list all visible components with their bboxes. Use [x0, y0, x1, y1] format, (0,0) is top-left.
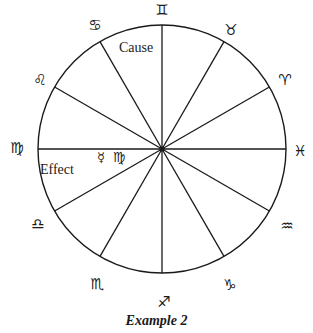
taurus-icon: ♉︎: [224, 23, 237, 38]
diagram-caption: Example 2: [0, 313, 313, 329]
effect-label: Effect: [40, 163, 74, 177]
virgo-icon: ♍︎: [10, 141, 23, 156]
pisces-icon: ♓︎: [293, 144, 306, 159]
aries-icon: ♈︎: [278, 73, 291, 88]
wheel-center: [160, 147, 165, 152]
wheel-spoke: [100, 42, 162, 149]
wheel-spoke: [162, 149, 224, 256]
wheel-spoke: [162, 42, 224, 149]
virgo-inner-icon: ♍: [113, 150, 126, 164]
sagittarius-icon: ♐︎: [157, 295, 170, 310]
wheel-spoke: [55, 87, 162, 149]
capricorn-icon: ♑︎: [223, 278, 236, 293]
wheel-spoke: [100, 149, 162, 256]
aquarius-icon: ♒︎: [280, 219, 293, 234]
zodiac-diagram: ♊︎♉︎♈︎♓︎♒︎♑︎♐︎♏︎♎︎♍︎♌︎♋︎ Cause Effect ☿ …: [0, 0, 313, 333]
wheel-spoke: [162, 149, 269, 211]
wheel-spoke: [162, 87, 269, 149]
gemini-icon: ♊︎: [155, 3, 168, 18]
libra-icon: ♎︎: [31, 217, 44, 232]
cancer-icon: ♋︎: [88, 18, 101, 33]
cause-label: Cause: [119, 41, 153, 55]
wheel-spoke: [55, 149, 162, 211]
mercury-icon: ☿: [97, 151, 105, 164]
scorpio-icon: ♏︎: [90, 277, 103, 292]
leo-icon: ♌︎: [33, 73, 46, 88]
